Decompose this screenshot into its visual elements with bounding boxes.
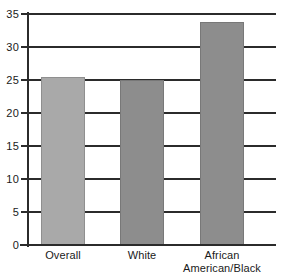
- y-tick-mark-35: [21, 13, 29, 15]
- x-label-white: White: [102, 249, 182, 262]
- y-tick-label-10: 10: [0, 174, 19, 185]
- y-tick-mark-30: [21, 46, 29, 48]
- y-tick-label-35: 35: [0, 9, 19, 20]
- x-label-african-american-black: African American/Black: [172, 249, 272, 274]
- y-tick-label-30: 30: [0, 42, 19, 53]
- y-tick-mark-5: [21, 211, 29, 213]
- bar-chart-figure: 35 30 25 20 15 10 5 0 Overall White Afri…: [0, 0, 287, 276]
- y-tick-mark-15: [21, 145, 29, 147]
- bar-african-american-black: [200, 22, 244, 245]
- y-tick-label-5: 5: [0, 207, 19, 218]
- y-tick-label-25: 25: [0, 75, 19, 86]
- y-tick-mark-20: [21, 112, 29, 114]
- y-tick-mark-25: [21, 79, 29, 81]
- y-tick-label-0: 0: [0, 240, 19, 251]
- bar-overall: [41, 77, 85, 245]
- x-label-overall: Overall: [23, 249, 103, 262]
- x-axis-line: [20, 244, 276, 246]
- y-tick-mark-0: [21, 244, 29, 246]
- y-tick-label-15: 15: [0, 141, 19, 152]
- y-tick-label-20: 20: [0, 108, 19, 119]
- bars-group: [0, 0, 287, 245]
- bar-white: [120, 80, 164, 245]
- y-tick-mark-10: [21, 178, 29, 180]
